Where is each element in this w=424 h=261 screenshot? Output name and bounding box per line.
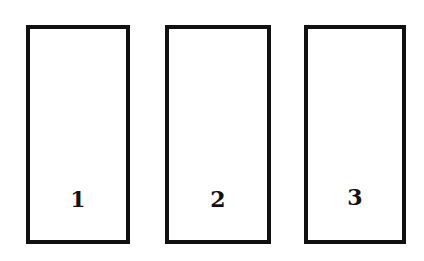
box-2: 2 bbox=[165, 25, 271, 244]
box-1: 1 bbox=[26, 25, 130, 244]
box-3: 3 bbox=[304, 25, 406, 244]
box-label: 3 bbox=[308, 186, 402, 208]
box-label: 2 bbox=[169, 188, 267, 210]
box-label: 1 bbox=[30, 188, 126, 210]
